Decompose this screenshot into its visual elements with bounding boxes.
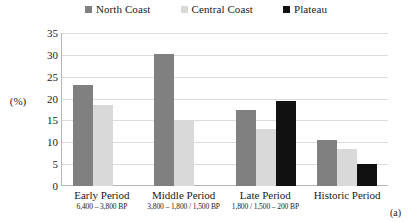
x-axis-sublabel-middle-period: 3,800 – 1,800 / 1,500 BP xyxy=(143,202,225,212)
legend-swatch-central-coast xyxy=(181,6,188,13)
bars-layer xyxy=(62,33,388,186)
bar-north-coast-early-period xyxy=(73,85,93,186)
y-axis-tick-15: 15 xyxy=(28,115,58,126)
bar-central-coast-late-period xyxy=(256,129,276,186)
x-axis-group-early-period: Early Period6,400 – 3,800 BP xyxy=(61,189,143,219)
x-axis-labels: Early Period6,400 – 3,800 BPMiddle Perio… xyxy=(61,189,388,219)
bar-north-coast-historic-period xyxy=(317,140,337,186)
y-axis-tick-20: 20 xyxy=(28,93,58,104)
legend-label-north-coast: North Coast xyxy=(96,4,151,15)
bar-central-coast-early-period xyxy=(93,105,113,186)
legend-label-plateau: Plateau xyxy=(294,4,327,15)
x-axis-group-historic-period: Historic Period xyxy=(306,189,388,219)
x-axis-label-middle-period: Middle Period xyxy=(143,189,225,202)
panel-caption: (a) xyxy=(390,208,401,218)
x-axis-sublabel-late-period: 1,800 / 1,500 – 200 BP xyxy=(225,202,307,212)
legend-item-plateau: Plateau xyxy=(283,4,327,15)
y-axis-tick-10: 10 xyxy=(28,137,58,148)
bar-plateau-historic-period xyxy=(357,164,377,186)
bar-group-historic-period xyxy=(307,33,389,186)
chart-legend: North Coast Central Coast Plateau xyxy=(0,2,412,16)
y-axis-tick-labels: 35302520151050 xyxy=(28,33,58,186)
x-axis-group-late-period: Late Period1,800 / 1,500 – 200 BP xyxy=(225,189,307,219)
legend-label-central-coast: Central Coast xyxy=(192,4,253,15)
legend-item-north-coast: North Coast xyxy=(85,4,151,15)
legend-item-central-coast: Central Coast xyxy=(181,4,253,15)
bar-group-early-period xyxy=(62,33,144,186)
bar-north-coast-late-period xyxy=(236,110,256,187)
plot-area xyxy=(61,33,388,186)
bar-central-coast-historic-period xyxy=(337,149,357,186)
legend-swatch-plateau xyxy=(283,6,290,13)
bar-plateau-late-period xyxy=(276,101,296,186)
x-axis-label-late-period: Late Period xyxy=(225,189,307,202)
x-axis-group-middle-period: Middle Period3,800 – 1,800 / 1,500 BP xyxy=(143,189,225,219)
bar-central-coast-middle-period xyxy=(174,120,194,186)
y-axis-tick-5: 5 xyxy=(28,159,58,170)
bar-group-late-period xyxy=(225,33,307,186)
y-axis-tick-30: 30 xyxy=(28,49,58,60)
legend-swatch-north-coast xyxy=(85,6,92,13)
x-axis-label-early-period: Early Period xyxy=(61,189,143,202)
bar-group-middle-period xyxy=(144,33,226,186)
y-axis-tick-0: 0 xyxy=(28,181,58,192)
bar-north-coast-middle-period xyxy=(154,54,174,186)
y-axis-tick-25: 25 xyxy=(28,71,58,82)
x-axis-label-historic-period: Historic Period xyxy=(306,189,388,202)
y-axis-tick-35: 35 xyxy=(28,28,58,39)
bar-chart-figure: North Coast Central Coast Plateau (%) 35… xyxy=(0,0,412,222)
x-axis-sublabel-early-period: 6,400 – 3,800 BP xyxy=(61,202,143,212)
